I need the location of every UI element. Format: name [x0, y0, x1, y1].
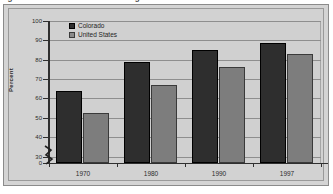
x-tick-mark [253, 164, 254, 167]
y-tick-label: 30 [12, 154, 42, 160]
y-axis-title: Percent [8, 68, 14, 92]
x-tick-mark [185, 164, 186, 167]
x-tick-mark [49, 164, 50, 167]
y-tick-label: 60 [12, 95, 42, 101]
bar-colorado-1970 [56, 91, 82, 163]
x-tick-mark [321, 164, 322, 167]
figure-frame: 030405060708090100 Percent 1970198019901… [3, 4, 329, 186]
bar-united-states-1980 [151, 85, 177, 163]
chart-legend: Colorado United States [69, 22, 117, 40]
bars-layer [49, 21, 321, 163]
bar-colorado-1980 [124, 62, 150, 163]
figure-title-fragment: Figure 3. Health insurance coverage [0, 0, 333, 2]
y-tick-label: 90 [12, 37, 42, 43]
y-tick-label: 100 [12, 18, 42, 24]
legend-label: United States [78, 31, 117, 39]
x-tick-mark [117, 164, 118, 167]
y-tick-mark [43, 21, 48, 22]
y-tick-label: 40 [12, 134, 42, 140]
bar-united-states-1990 [219, 67, 245, 163]
x-tick-label: 1997 [267, 170, 307, 177]
y-tick-mark [43, 118, 48, 119]
figure-inner-panel: 030405060708090100 Percent 1970198019901… [8, 8, 324, 181]
y-tick-mark [43, 137, 48, 138]
legend-item-colorado: Colorado [69, 22, 117, 30]
legend-swatch-icon [69, 23, 75, 29]
x-axis-line [48, 163, 328, 164]
legend-item-united-states: United States [69, 31, 117, 39]
x-tick-label: 1970 [63, 170, 103, 177]
y-tick-mark [43, 79, 48, 80]
y-tick-label: 50 [12, 115, 42, 121]
x-tick-label: 1980 [131, 170, 171, 177]
legend-label: Colorado [78, 22, 104, 30]
y-tick-label: 70 [12, 76, 42, 82]
bar-colorado-1997 [260, 43, 286, 163]
y-tick-mark [43, 60, 48, 61]
legend-swatch-icon [69, 32, 75, 38]
y-tick-mark [43, 40, 48, 41]
y-tick-mark [43, 98, 48, 99]
bar-colorado-1990 [192, 50, 218, 163]
bar-united-states-1970 [83, 113, 109, 163]
x-tick-label: 1990 [199, 170, 239, 177]
y-tick-label: 0 [12, 160, 42, 166]
chart-screenshot: Figure 3. Health insurance coverage 0304… [0, 0, 333, 194]
y-tick-label: 80 [12, 57, 42, 63]
bar-united-states-1997 [287, 54, 313, 163]
